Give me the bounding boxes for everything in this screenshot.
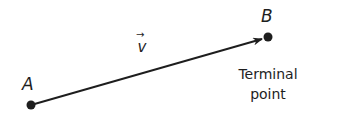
caption-line-2: point [228, 84, 308, 104]
vector-label-text: v [138, 38, 147, 56]
point-a-dot [27, 101, 36, 110]
point-b-label: B [261, 6, 273, 26]
vector-diagram: A B → v Terminal point [0, 0, 341, 120]
point-b-dot [264, 33, 273, 42]
terminal-point-caption: Terminal point [228, 64, 308, 104]
vector-arrow-glyph: → [136, 29, 144, 40]
caption-line-1: Terminal [228, 64, 308, 84]
vector-label: → v [135, 38, 149, 56]
point-a-label: A [22, 74, 34, 94]
